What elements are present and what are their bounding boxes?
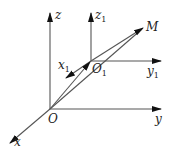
- O-label: O: [48, 112, 58, 126]
- y1-label: y1: [146, 64, 159, 80]
- x1-label: x1: [58, 58, 70, 74]
- vector-O1-M: [91, 28, 143, 61]
- x-label: x: [14, 135, 21, 149]
- z-label: z: [54, 8, 62, 22]
- coordinate-frames-diagram: z z1 M x1 O1 y1 O y x: [0, 0, 176, 151]
- M-label: M: [145, 20, 159, 34]
- O1-label: O1: [92, 62, 107, 78]
- y-label: y: [154, 112, 162, 126]
- z1-label: z1: [94, 8, 106, 24]
- vector-O-O1: [50, 62, 90, 109]
